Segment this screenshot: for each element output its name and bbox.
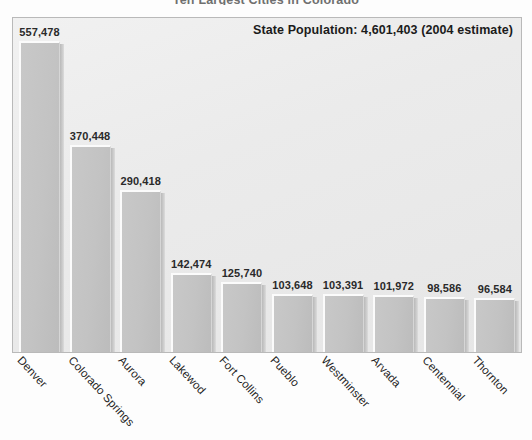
bar-aurora: 290,418 xyxy=(120,190,161,352)
bar-fill xyxy=(272,294,313,352)
bar-colorado-springs: 370,448 xyxy=(70,145,111,352)
bar-value-label: 103,648 xyxy=(272,279,312,291)
x-label-denver: Denver xyxy=(15,354,49,390)
bar-westminster: 103,391 xyxy=(323,294,364,352)
bar-thornton: 96,584 xyxy=(474,298,515,352)
plot-area: State Population: 4,601,403 (2004 estima… xyxy=(12,17,522,353)
bar-fill xyxy=(70,145,111,352)
bar-fill xyxy=(424,297,465,352)
category-axis-labels: DenverColorado SpringsAuroraLakewodFort … xyxy=(12,354,522,440)
bar-value-label: 103,391 xyxy=(323,279,363,291)
bar-fill xyxy=(221,282,262,352)
chart-screenshot: Ten Largest Cities in Colorado State Pop… xyxy=(0,0,532,440)
state-population-annotation: State Population: 4,601,403 (2004 estima… xyxy=(253,23,513,37)
bar-arvada: 101,972 xyxy=(373,295,414,352)
bar-denver: 557,478 xyxy=(19,41,60,352)
bar-value-label: 557,478 xyxy=(19,26,59,38)
x-label-thornton: Thornton xyxy=(471,354,512,396)
x-label-arvada: Arvada xyxy=(369,354,403,389)
bar-value-label: 290,418 xyxy=(120,175,160,187)
bar-value-label: 142,474 xyxy=(171,258,211,270)
x-label-aurora: Aurora xyxy=(116,354,149,388)
bar-value-label: 125,740 xyxy=(222,267,262,279)
x-label-fort-collins: Fort Collins xyxy=(218,354,267,406)
bar-fill xyxy=(19,41,60,352)
bar-pueblo: 103,648 xyxy=(272,294,313,352)
x-label-lakewod: Lakewod xyxy=(167,354,208,396)
bar-value-label: 101,972 xyxy=(373,280,413,292)
bar-value-label: 96,584 xyxy=(478,283,512,295)
bar-fill xyxy=(120,190,161,352)
bar-fill xyxy=(474,298,515,352)
bar-fill xyxy=(171,273,212,352)
x-label-centennial: Centennial xyxy=(420,354,467,403)
x-label-pueblo: Pueblo xyxy=(268,354,302,389)
bar-centennial: 98,586 xyxy=(424,297,465,352)
bar-fill xyxy=(373,295,414,352)
x-label-westminster: Westminster xyxy=(319,354,372,410)
bar-fort-collins: 125,740 xyxy=(221,282,262,352)
bar-value-label: 98,586 xyxy=(427,282,461,294)
bar-lakewod: 142,474 xyxy=(171,273,212,352)
bar-fill xyxy=(323,294,364,352)
bar-value-label: 370,448 xyxy=(70,130,110,142)
chart-title: Ten Largest Cities in Colorado xyxy=(0,0,532,5)
